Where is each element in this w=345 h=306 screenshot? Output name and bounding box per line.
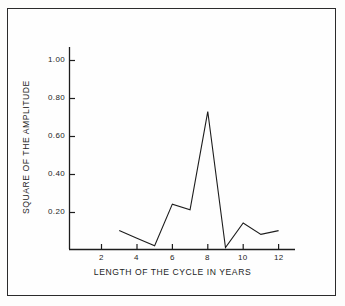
x-tick-label-12: 12 <box>274 253 284 262</box>
y-tick-label-0.60: 0.60 <box>48 131 65 140</box>
y-axis-title: SQUARE OF THE AMPLITUDE <box>31 64 43 214</box>
x-tick-label-10: 10 <box>238 253 248 262</box>
amplitude-data-line <box>119 112 278 248</box>
x-tick-label-8: 8 <box>205 253 210 262</box>
x-axis-title: LENGTH OF THE CYCLE IN YEARS <box>0 267 345 277</box>
x-tick-label-6: 6 <box>170 253 175 262</box>
y-tick-label-1.00: 1.00 <box>48 55 65 64</box>
y-tick-label-0.40: 0.40 <box>48 169 65 178</box>
y-tick-label-0.20: 0.20 <box>48 207 65 216</box>
figure-container: 1.00 0.80 0.60 0.40 0.20 2 4 6 8 10 12 S… <box>0 0 345 306</box>
y-tick-label-0.80: 0.80 <box>48 93 65 102</box>
x-tick-label-4: 4 <box>134 253 139 262</box>
x-tick-label-2: 2 <box>99 253 104 262</box>
